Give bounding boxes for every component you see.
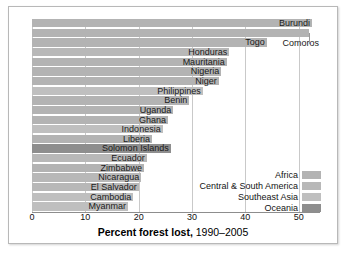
- legend-item: Africa: [151, 170, 321, 180]
- legend-swatch-central-south-america: [302, 182, 321, 190]
- x-axis-ticks: 01020304050: [32, 212, 320, 226]
- x-axis-title-years: 1990–2005: [193, 226, 248, 238]
- bar-label-togo: Togo: [245, 37, 266, 48]
- bar-row: Honduras: [32, 48, 320, 56]
- x-axis-title: Percent forest lost, 1990–2005: [9, 226, 337, 238]
- bar-label-myanmar: Myanmar: [88, 201, 127, 212]
- legend-label-southeast-asia: Southeast Asia: [238, 192, 298, 202]
- x-tick-label-20: 20: [134, 212, 144, 222]
- x-axis-title-bold: Percent forest lost,: [98, 226, 193, 238]
- bar-row: Nigeria: [32, 67, 320, 75]
- bar-comoros: [32, 29, 309, 37]
- bar-row: Niger: [32, 77, 320, 85]
- bar-row: Philippines: [32, 87, 320, 95]
- bar-row: Ghana: [32, 116, 320, 124]
- legend-item: Oceania: [151, 203, 321, 213]
- legend-label-africa: Africa: [275, 170, 298, 180]
- bar-row: Solomon Islands: [32, 144, 320, 152]
- bar-label-burundi: Burundi: [279, 18, 311, 29]
- legend-swatch-africa: [302, 171, 321, 179]
- bar-row: Indonesia: [32, 125, 320, 133]
- legend-label-central-south-america: Central & South America: [199, 181, 298, 191]
- legend-item: Central & South America: [151, 181, 321, 191]
- legend-swatch-oceania: [302, 204, 321, 212]
- bar-row: Uganda: [32, 106, 320, 114]
- legend-swatch-southeast-asia: [302, 193, 321, 201]
- bar-niger: [32, 77, 219, 85]
- legend-item: Southeast Asia: [151, 192, 321, 202]
- x-tick-label-10: 10: [80, 212, 90, 222]
- chart-legend: AfricaCentral & South AmericaSoutheast A…: [151, 170, 321, 214]
- chart-figure: BurundiComorosTogoHondurasMauritaniaNige…: [8, 6, 338, 244]
- bar-row: Comoros: [32, 29, 320, 37]
- bar-row: Liberia: [32, 135, 320, 143]
- bar-row: Ecuador: [32, 154, 320, 162]
- bar-togo: [32, 38, 267, 46]
- bar-row: Togo: [32, 38, 320, 46]
- bar-burundi: [32, 19, 312, 27]
- bar-row: Mauritania: [32, 58, 320, 66]
- legend-label-oceania: Oceania: [264, 203, 298, 213]
- bar-row: Benin: [32, 96, 320, 104]
- bar-row: Burundi: [32, 19, 320, 27]
- comoros-leader-line: [309, 33, 310, 45]
- x-tick-label-0: 0: [29, 212, 34, 222]
